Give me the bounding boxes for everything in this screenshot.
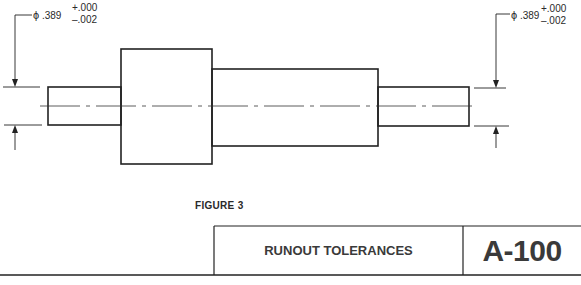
right-diameter-callout: ϕ .389 bbox=[511, 10, 539, 21]
left-upper-tolerance: +.000 bbox=[72, 2, 97, 14]
left-lower-tolerance: –.002 bbox=[72, 14, 97, 26]
right-leader-line bbox=[496, 14, 510, 81]
right-tolerance: +.000 –.002 bbox=[541, 3, 566, 27]
right-upper-tolerance: +.000 bbox=[541, 3, 566, 15]
left-arrow-up-icon bbox=[12, 125, 18, 133]
figure-label: FIGURE 3 bbox=[195, 200, 244, 211]
middle-section bbox=[212, 69, 378, 146]
diameter-symbol-icon: ϕ bbox=[33, 9, 39, 21]
left-tolerance: +.000 –.002 bbox=[72, 2, 97, 26]
drawing-number: A-100 bbox=[463, 226, 581, 275]
right-dimension bbox=[474, 14, 510, 148]
collar bbox=[121, 49, 212, 164]
diameter-symbol-icon: ϕ bbox=[511, 9, 517, 21]
left-leader-line bbox=[15, 15, 32, 80]
right-lower-tolerance: –.002 bbox=[541, 15, 566, 27]
left-dimension bbox=[3, 15, 42, 150]
right-arrow-up-icon bbox=[493, 126, 499, 134]
left-arrow-down-icon bbox=[12, 79, 18, 87]
drawing-title: RUNOUT TOLERANCES bbox=[214, 226, 463, 275]
left-diameter-callout: ϕ .389 bbox=[33, 10, 61, 21]
left-diameter-nominal: .389 bbox=[42, 10, 61, 21]
right-arrow-down-icon bbox=[493, 80, 499, 88]
shaft-outline bbox=[48, 49, 469, 164]
right-diameter-nominal: .389 bbox=[520, 10, 539, 21]
right-journal bbox=[378, 87, 469, 126]
